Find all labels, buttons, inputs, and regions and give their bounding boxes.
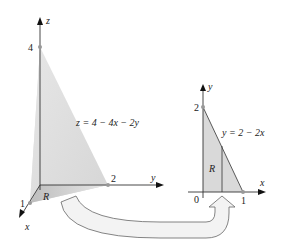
x-axis-2d-arrow-icon — [258, 189, 266, 195]
y-axis-2d-arrow-icon — [200, 84, 206, 91]
origin-label: 0 — [194, 194, 199, 205]
z-axis-arrow-icon — [37, 17, 43, 25]
diagram-canvas: z 4 z = 4 − 4x − 2y 2 y 1 x R y 2 y = 2 … — [0, 0, 282, 244]
y-axis-2d-label: y — [207, 81, 213, 92]
line-equation: y = 2 − 2x — [221, 127, 265, 138]
z-intercept-point — [38, 45, 42, 49]
x-intercept-point-2d — [241, 190, 245, 194]
x-axis-label: x — [24, 221, 30, 232]
x-intercept-2d-label: 1 — [241, 195, 246, 206]
y-axis-arrow-icon — [156, 182, 164, 188]
three-d-plot: z 4 z = 4 − 4x − 2y 2 y 1 x R — [19, 15, 164, 232]
y-intercept-point-2d — [201, 105, 205, 109]
x-axis-2d-label: x — [259, 177, 265, 188]
y-intercept-2d-label: 2 — [194, 102, 199, 113]
projection-arrow-icon — [61, 196, 235, 238]
surface-equation: z = 4 − 4x − 2y — [75, 117, 140, 128]
y-intercept-label: 2 — [111, 173, 116, 184]
y-intercept-point — [106, 183, 110, 187]
x-intercept-point — [28, 201, 32, 205]
region-r-label-3d: R — [42, 191, 49, 202]
two-d-plot: y 2 y = 2 − 2x R 0 1 x — [188, 81, 266, 206]
y-axis-label: y — [150, 172, 156, 183]
z-intercept-label: 4 — [28, 42, 33, 53]
region-r-label-2d: R — [208, 163, 215, 174]
z-axis-label: z — [45, 15, 50, 26]
x-intercept-label: 1 — [20, 198, 25, 209]
